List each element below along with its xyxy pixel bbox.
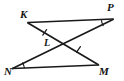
segment-NM bbox=[13, 65, 99, 69]
vertex-label-L: L bbox=[44, 37, 50, 48]
segment-KP bbox=[28, 19, 113, 23]
vertex-label-K: K bbox=[20, 9, 27, 20]
vertex-label-N: N bbox=[4, 66, 12, 77]
vertex-label-P: P bbox=[107, 2, 114, 13]
tick-on-LM bbox=[77, 47, 81, 53]
segment-NP bbox=[13, 20, 114, 69]
vertex-label-M: M bbox=[99, 66, 109, 77]
geometry-figure: K P N M L bbox=[0, 0, 124, 81]
